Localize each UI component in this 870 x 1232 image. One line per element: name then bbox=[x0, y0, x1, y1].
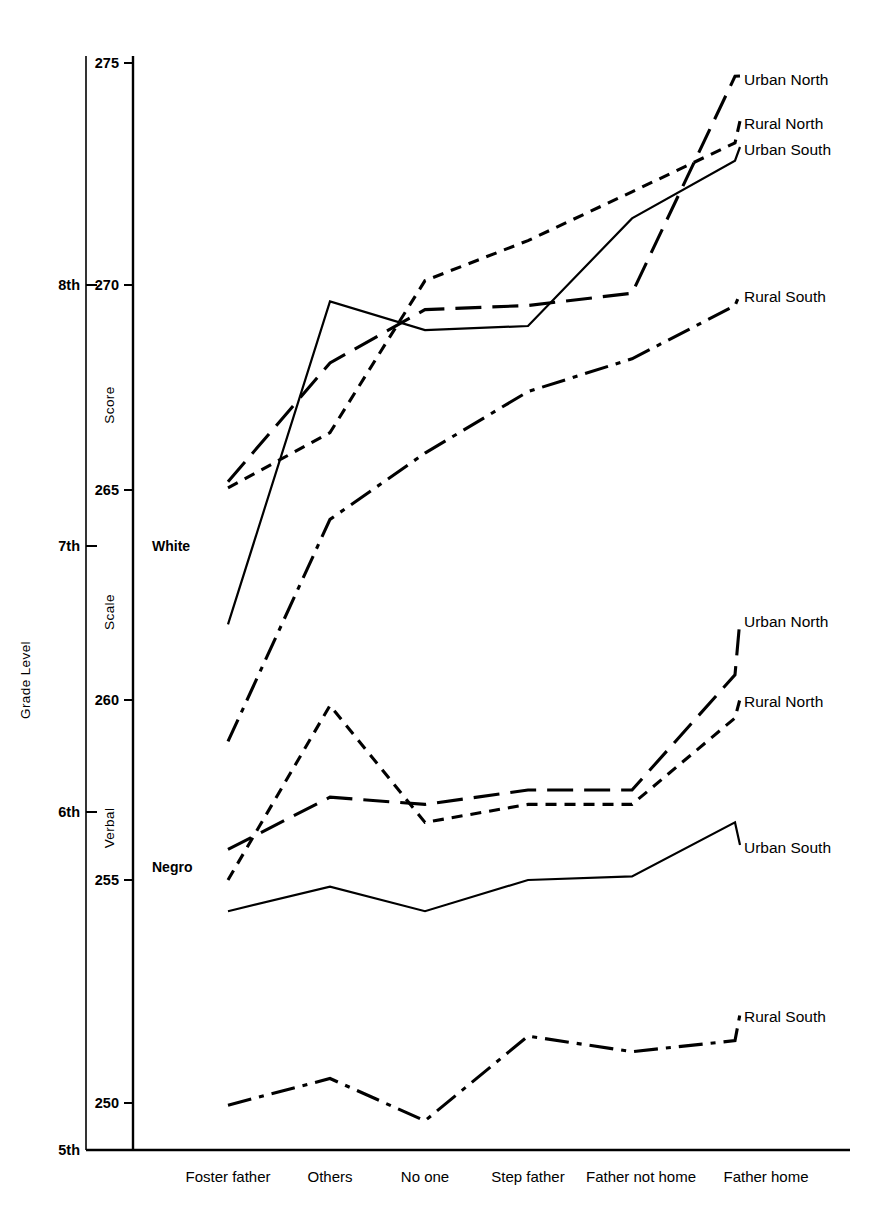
grade-tick-5th: 5th bbox=[58, 1142, 80, 1158]
axis-title-grade-level: Grade Level bbox=[18, 641, 33, 719]
x-label-father-not-home: Father not home bbox=[586, 1168, 696, 1185]
axis-title-verbal: Verbal bbox=[102, 808, 117, 849]
series-line-negro-rural-south bbox=[228, 1014, 740, 1121]
score-ticks bbox=[124, 63, 133, 1103]
x-label-no-one: No one bbox=[401, 1168, 449, 1185]
axis-title-score: Score bbox=[102, 386, 117, 423]
series-line-negro-rural-north bbox=[228, 699, 740, 880]
score-tick-270: 270 bbox=[95, 277, 119, 293]
series-line-white-urban-south bbox=[228, 147, 740, 624]
series-line-white-rural-north bbox=[228, 121, 740, 488]
series-label-upper-rural-north: Rural North bbox=[744, 115, 823, 132]
x-label-foster-father: Foster father bbox=[185, 1168, 270, 1185]
series-label-lower-urban-south: Urban South bbox=[744, 839, 831, 856]
series-label-upper-rural-south: Rural South bbox=[744, 288, 826, 305]
series-line-white-rural-south bbox=[228, 294, 740, 741]
x-label-step-father: Step father bbox=[491, 1168, 564, 1185]
grade-tick-6th: 6th bbox=[58, 804, 80, 820]
score-tick-275: 275 bbox=[95, 55, 119, 71]
series-label-upper-urban-south: Urban South bbox=[744, 141, 831, 158]
grade-tick-8th: 8th bbox=[58, 277, 80, 293]
grade-ticks bbox=[86, 285, 97, 812]
series-label-lower-urban-north: Urban North bbox=[744, 613, 828, 630]
score-tick-265: 265 bbox=[95, 482, 119, 498]
legend-lower: Urban North Rural North Urban South Rura… bbox=[744, 613, 831, 1025]
group-label-negro: Negro bbox=[152, 859, 192, 875]
axis-title-scale: Scale bbox=[102, 594, 117, 630]
chart-canvas: 275 270 265 260 255 250 8th 7th 6th 5th … bbox=[0, 0, 870, 1232]
line-chart: 275 270 265 260 255 250 8th 7th 6th 5th … bbox=[0, 0, 870, 1232]
grade-tick-7th: 7th bbox=[58, 538, 80, 554]
x-label-father-home: Father home bbox=[723, 1168, 808, 1185]
score-tick-260: 260 bbox=[95, 692, 119, 708]
series-layer bbox=[228, 76, 740, 1121]
score-tick-255: 255 bbox=[95, 872, 119, 888]
series-line-negro-urban-south bbox=[228, 822, 740, 911]
series-label-lower-rural-south: Rural South bbox=[744, 1008, 826, 1025]
group-label-white: White bbox=[152, 538, 190, 554]
x-label-others: Others bbox=[307, 1168, 352, 1185]
series-label-upper-urban-north: Urban North bbox=[744, 71, 828, 88]
series-line-white-urban-north bbox=[228, 76, 740, 482]
series-line-negro-urban-north bbox=[228, 619, 740, 849]
series-label-lower-rural-north: Rural North bbox=[744, 693, 823, 710]
score-tick-250: 250 bbox=[95, 1095, 119, 1111]
legend-upper: Urban North Rural North Urban South Rura… bbox=[744, 71, 831, 305]
